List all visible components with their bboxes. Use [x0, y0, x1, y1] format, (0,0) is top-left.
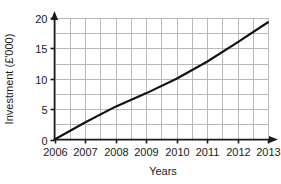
- y-axis-label: Investment (£'000): [3, 34, 15, 125]
- y-axis-tick-label: 20: [35, 13, 47, 25]
- line-chart: 05101520 2006200720082009201020112012201…: [0, 0, 281, 184]
- x-axis-label: Years: [149, 165, 177, 177]
- x-axis-tick-label: 2006: [43, 146, 67, 158]
- y-axis-tick-label: 15: [35, 43, 47, 55]
- x-axis-tick-label: 2007: [73, 146, 97, 158]
- x-axis-tick-label: 2010: [165, 146, 189, 158]
- y-axis-tick-label: 5: [41, 104, 47, 116]
- chart-figure: 05101520 2006200720082009201020112012201…: [0, 0, 281, 184]
- x-axis-tick-label: 2008: [104, 146, 128, 158]
- x-axis-tick-label: 2012: [226, 146, 250, 158]
- x-axis-tick-label: 2011: [196, 146, 220, 158]
- x-axis-tick-label: 2009: [134, 146, 158, 158]
- x-axis-tick-label: 2013: [256, 146, 280, 158]
- y-axis-tick-label: 10: [35, 74, 47, 86]
